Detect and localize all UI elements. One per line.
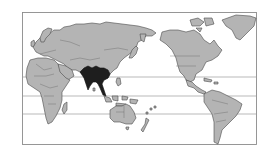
sri-lanka-island <box>93 88 95 91</box>
world-map <box>0 0 274 158</box>
map-canvas <box>0 0 274 158</box>
